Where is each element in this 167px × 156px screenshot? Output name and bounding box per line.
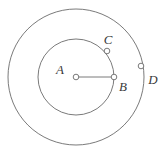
geometry-canvas (0, 0, 167, 156)
point-marker-c (104, 48, 110, 54)
point-marker-a (73, 74, 79, 80)
point-marker-d (138, 63, 144, 69)
point-label-d: D (148, 73, 157, 86)
point-marker-b (111, 74, 117, 80)
geometry-figure: A B C D (0, 0, 167, 156)
point-label-c: C (104, 33, 113, 46)
point-label-b: B (119, 80, 127, 93)
point-label-a: A (56, 63, 64, 76)
